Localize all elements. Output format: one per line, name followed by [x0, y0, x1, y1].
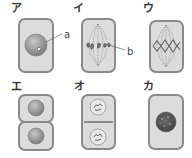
diagram-drawings [0, 0, 192, 158]
nucleus-icon [28, 128, 44, 144]
nucleus-icon [25, 34, 47, 56]
leader-line-b [109, 45, 125, 50]
chromosome-icon [153, 40, 180, 52]
condensed-nucleus-icon [156, 112, 176, 132]
spindle-icon [157, 25, 175, 67]
leader-line-a [46, 34, 62, 42]
daughter-nucleus-icon [90, 129, 106, 145]
daughter-nucleus-icon [90, 99, 106, 115]
nucleus-icon [28, 100, 44, 116]
